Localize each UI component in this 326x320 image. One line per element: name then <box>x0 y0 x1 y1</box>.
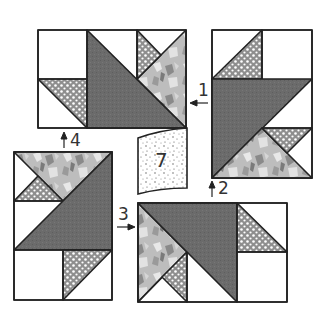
arrow-2-icon <box>209 181 215 197</box>
arrow-1-icon <box>190 100 208 106</box>
step-label-2: 2 <box>218 180 229 197</box>
step-label-4: 4 <box>70 132 81 149</box>
arrow-4-icon <box>61 132 67 148</box>
step-label-1: 1 <box>198 82 209 99</box>
block-bottom-left <box>14 152 112 300</box>
quilt-diagram: 1 2 3 4 7 <box>0 0 326 320</box>
step-label-3: 3 <box>118 206 129 223</box>
center-piece-label: 7 <box>155 150 168 170</box>
arrow-3-icon <box>117 224 135 230</box>
block-top-right <box>212 30 312 178</box>
block-top-left <box>38 30 186 128</box>
block-bottom-right <box>138 203 287 302</box>
